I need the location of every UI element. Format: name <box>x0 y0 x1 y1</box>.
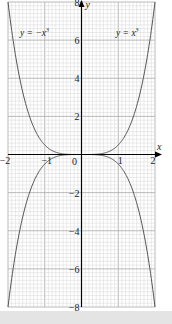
y-tick-label: 4 <box>75 73 80 84</box>
x-tick-label: 2 <box>151 155 156 166</box>
x-tick-label: 1 <box>118 155 123 166</box>
x-axis-label: x <box>156 141 162 152</box>
curve-label-right: y = x3 <box>115 27 139 38</box>
y-tick-label: 6 <box>75 35 80 46</box>
cubic-graph: −2−1120−8−6−4−22468xy y = −x3y = x3 <box>0 0 172 324</box>
x-axis-arrow-icon <box>155 152 162 158</box>
origin-label: 0 <box>72 156 77 167</box>
curve-label-left: y = −x3 <box>19 27 49 38</box>
y-tick-label: 2 <box>75 111 80 122</box>
y-tick-label: −2 <box>69 188 80 199</box>
x-tick-label: −2 <box>0 155 10 166</box>
y-tick-label: −6 <box>69 264 80 275</box>
y-tick-label: 8 <box>75 0 80 8</box>
bottom-band <box>0 311 172 324</box>
y-tick-label: −4 <box>69 226 80 237</box>
y-axis-label: y <box>85 0 91 10</box>
x-tick-label: −1 <box>41 155 52 166</box>
